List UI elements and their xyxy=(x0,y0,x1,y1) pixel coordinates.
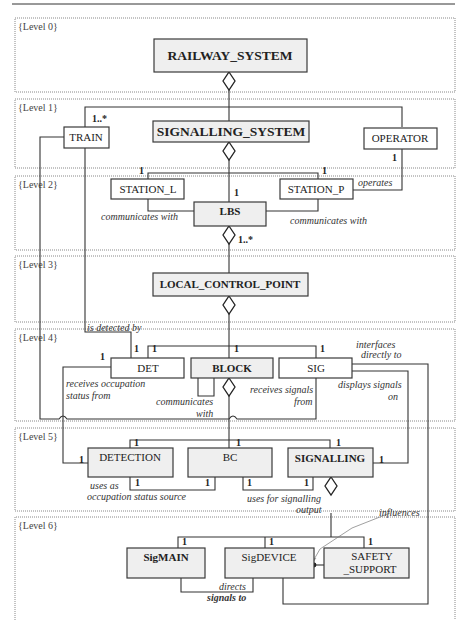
role-receives-occ-1: receives occupation xyxy=(66,378,145,389)
aggregation-diamond-icon xyxy=(223,226,235,244)
class-signalling-system[interactable]: SIGNALLING_SYSTEM xyxy=(153,121,309,142)
class-block[interactable]: BLOCK xyxy=(191,358,273,378)
mult-lbs: 1 xyxy=(234,187,239,198)
mult-bc-bottom-l: 1 xyxy=(205,477,210,488)
level-5-label: {Level 5} xyxy=(18,431,58,442)
class-station-l[interactable]: STATION_L xyxy=(111,179,184,199)
edge-block-self xyxy=(198,378,214,396)
class-local-control-point[interactable]: LOCAL_CONTROL_POINT xyxy=(153,273,308,296)
mult-lbs-many: 1..* xyxy=(238,234,253,245)
role-receives-sig-2: from xyxy=(294,396,313,407)
mult-bc-top: 1 xyxy=(236,437,241,448)
class-railway-system[interactable]: RAILWAY_SYSTEM xyxy=(154,39,307,72)
level-0-label: {Level 0} xyxy=(18,21,58,32)
mult-sigdevice: 1 xyxy=(269,536,274,547)
class-name: STATION_P xyxy=(288,183,345,195)
class-train[interactable]: TRAIN xyxy=(64,127,109,148)
level-2-label: {Level 2} xyxy=(18,179,58,190)
role-influences: influences xyxy=(379,507,420,518)
class-det[interactable]: DET xyxy=(111,358,184,378)
class-name: BC xyxy=(223,451,238,463)
role-displays-1: displays signals xyxy=(338,379,402,390)
class-name: SIG xyxy=(307,362,325,374)
role-communicates-p: communicates with xyxy=(290,215,367,226)
mult-bc-bottom-r: 1 xyxy=(247,477,252,488)
diagram-canvas: {Level 0} {Level 1} {Level 2} {Level 3} … xyxy=(0,0,466,620)
class-operator[interactable]: OPERATOR xyxy=(364,128,437,149)
class-bc[interactable]: BC xyxy=(188,448,272,477)
class-name: LOCAL_CONTROL_POINT xyxy=(160,278,301,290)
mult-det-a: 1 xyxy=(134,343,139,354)
role-uses-for-1: uses for signalling xyxy=(247,493,321,504)
mult-sig: 1 xyxy=(320,343,325,354)
aggregation-diamond-icon xyxy=(223,378,235,396)
aggregation-diamond-icon xyxy=(223,142,235,160)
mult-train: 1..* xyxy=(92,113,107,124)
class-lbs[interactable]: LBS xyxy=(194,202,266,226)
role-interfaces-2: directly to xyxy=(361,349,401,360)
edge-bc-signalling xyxy=(243,477,313,490)
role-receives-sig-1: receives signals xyxy=(250,384,313,395)
class-detection[interactable]: DETECTION xyxy=(88,448,173,477)
role-uses-as-2: occupation status source xyxy=(87,491,187,502)
class-name: TRAIN xyxy=(69,131,103,143)
class-name-line2: _SUPPORT xyxy=(342,563,396,575)
role-communicates-1: communicates xyxy=(156,396,213,407)
mult-sigmain: 1 xyxy=(182,536,187,547)
class-name-line1: SAFETY xyxy=(351,550,393,562)
role-communicates-2: with xyxy=(196,408,213,419)
class-name: RAILWAY_SYSTEM xyxy=(167,48,292,63)
class-name: SIGNALLING_SYSTEM xyxy=(157,124,306,139)
class-sig[interactable]: SIG xyxy=(279,358,352,378)
role-directs-2: signals to xyxy=(206,592,246,603)
role-is-detected-by: is detected by xyxy=(87,322,142,333)
mult-station-p: 1 xyxy=(322,165,327,176)
class-name: OPERATOR xyxy=(372,132,429,144)
class-station-p[interactable]: STATION_P xyxy=(280,179,353,199)
mult-signalling-right: 1 xyxy=(379,454,384,465)
role-uses-for-2: output xyxy=(296,504,322,515)
role-directs-1: directs xyxy=(219,581,246,592)
edge-detection-signalling xyxy=(130,440,330,448)
aggregation-diamond-icon xyxy=(223,296,235,314)
level-3-label: {Level 3} xyxy=(18,259,58,270)
class-name: SigMAIN xyxy=(143,551,188,563)
role-receives-occ-2: status from xyxy=(66,390,110,401)
mult-det-c: 1 xyxy=(100,351,105,362)
mult-detection-left: 1 xyxy=(79,454,84,465)
edge-stationp-lbs xyxy=(266,199,318,211)
class-name: SIGNALLING xyxy=(295,452,366,464)
mult-detection-top: 1 xyxy=(134,437,139,448)
class-name: BLOCK xyxy=(212,362,252,374)
level-6-label: {Level 6} xyxy=(18,520,58,531)
class-name: LBS xyxy=(220,205,241,217)
mult-safety: 1 xyxy=(368,536,373,547)
mult-signalling-bottom: 1 xyxy=(304,477,309,488)
aggregation-diamond-icon xyxy=(223,72,235,90)
mult-detection-bottom: 1 xyxy=(135,477,140,488)
level-4-label: {Level 4} xyxy=(18,332,58,343)
class-name: SigDEVICE xyxy=(242,551,297,563)
mult-signalling-top: 1 xyxy=(336,437,341,448)
class-signalling[interactable]: SIGNALLING xyxy=(288,448,373,477)
mult-block: 1 xyxy=(234,343,239,354)
class-name: DET xyxy=(137,362,159,374)
class-sigdevice[interactable]: SigDEVICE xyxy=(225,548,314,578)
mult-operator: 1 xyxy=(392,152,397,163)
edge-detection-bc xyxy=(130,477,215,490)
edge-det-sig xyxy=(148,346,316,358)
class-name: DETECTION xyxy=(99,451,161,463)
mult-det-b: 1 xyxy=(152,343,157,354)
class-name: STATION_L xyxy=(119,183,176,195)
edge-stationl-lbs xyxy=(148,199,194,211)
mult-station-l: 1 xyxy=(139,165,144,176)
level-1-label: {Level 1} xyxy=(18,102,58,113)
role-displays-2: on xyxy=(388,391,398,402)
aggregation-diamond-icon xyxy=(325,477,337,495)
class-sigmain[interactable]: SigMAIN xyxy=(127,548,205,578)
role-uses-as-1: uses as xyxy=(90,480,119,491)
role-communicates-l: communicates with xyxy=(101,211,178,222)
role-operates: operates xyxy=(358,177,393,188)
class-safety-support[interactable]: SAFETY _SUPPORT xyxy=(324,548,409,578)
